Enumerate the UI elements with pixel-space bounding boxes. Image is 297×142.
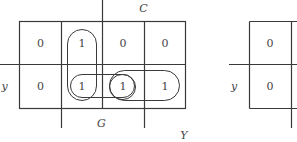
kmap-label-top: C [139,2,148,15]
kmap-label-bottom-left: G [97,117,106,130]
kmap-partial-cell-r2c1: 0 [267,80,274,93]
kmap-partial: 0 0 y [229,22,297,129]
kmap-cell-r2c4: 1 [162,80,169,93]
kmap-cell-r2c2: 1 [79,80,86,93]
kmap-cell-r1c3: 0 [120,37,127,50]
kmap-cell-r2c3: 1 [120,80,127,93]
kmap-main: 0 1 0 0 0 1 1 1 C y G Y [0,0,189,142]
kmap-label-bottom-right: Y [180,129,189,142]
kmap-cell-r2c1: 0 [37,80,44,93]
kmap-label-row2: y [0,80,8,93]
kmap-partial-label-row2: y [230,80,238,93]
kmap-partial-cell-r1c1: 0 [267,37,274,50]
kmap-cell-r1c2: 1 [79,37,86,50]
karnaugh-map-diagram: 0 1 0 0 0 1 1 1 C y G Y 0 0 y [0,0,297,142]
kmap-cell-r1c4: 0 [162,37,169,50]
kmap-cell-r1c1: 0 [37,37,44,50]
